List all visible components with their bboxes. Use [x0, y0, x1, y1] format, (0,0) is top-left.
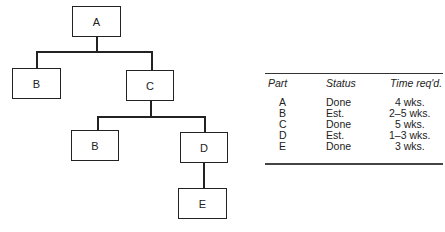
header-time: Time req'd.: [390, 77, 442, 89]
header-part: Part: [268, 77, 287, 89]
edge-c-b: [97, 116, 99, 130]
edge-c-bar: [97, 116, 206, 118]
edge-c-stem: [150, 101, 152, 117]
node-a-label: A: [93, 16, 100, 28]
edge-c-d: [204, 116, 206, 132]
node-b-sub-label: B: [91, 140, 98, 152]
cell-time: 3 wks.: [395, 140, 425, 152]
cell-part: E: [279, 140, 286, 152]
node-b: B: [12, 68, 61, 99]
edge-a-b: [36, 51, 38, 68]
table-bottom-rule: [265, 163, 443, 165]
node-b-label: B: [33, 78, 40, 90]
node-c: C: [126, 70, 174, 101]
cell-status: Done: [326, 140, 351, 152]
node-e-label: E: [199, 198, 206, 210]
edge-a-c: [151, 51, 153, 70]
edge-a-bar: [36, 51, 153, 53]
node-a: A: [72, 6, 121, 37]
node-e: E: [178, 188, 227, 219]
node-d-label: D: [200, 142, 208, 154]
edge-d-e: [203, 163, 205, 188]
node-d: D: [180, 132, 228, 163]
node-c-label: C: [146, 80, 154, 92]
node-b-sub: B: [71, 130, 119, 161]
header-status: Status: [326, 77, 356, 89]
edge-a-stem: [96, 37, 98, 52]
status-table: Part Status Time req'd. A Done 4 wks. B …: [265, 73, 443, 74]
